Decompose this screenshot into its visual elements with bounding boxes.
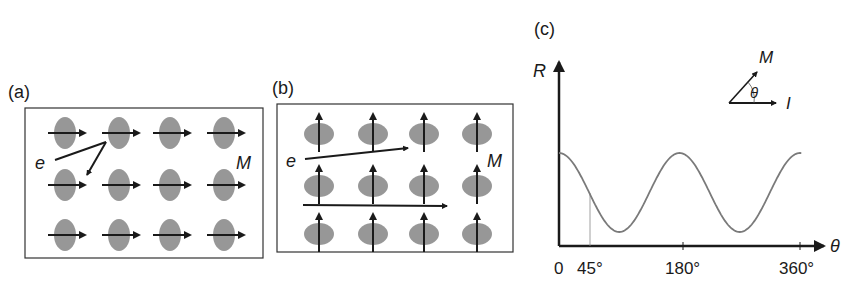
spin-atom [462,114,492,152]
tick-label-45: 45° [577,259,603,278]
spin-atom [102,219,139,251]
spin-lattice-b [304,114,492,252]
panel-a: (a) e M [8,82,263,258]
y-axis-label: R [533,61,546,81]
inset-i-label: I [786,94,791,113]
inset-m-label: M [759,48,774,67]
electron-label-b: e [286,151,296,171]
spin-atom [153,219,190,251]
panel-c: (c) R θ 0 45° 180° 360° M θ I [533,19,840,278]
spin-atom [462,166,492,204]
spin-atom [462,214,492,252]
figure-canvas: (a) e M (b) e M (c) R θ 0 45° 180° 360° [0,0,859,296]
magnetization-label-b: M [487,151,502,171]
tick-label-0: 0 [554,259,563,278]
spin-atom [409,166,439,204]
spin-atom [358,114,388,152]
spin-atom [207,169,244,201]
spin-atom [48,169,85,201]
inset-theta-label: θ [750,84,758,101]
spin-atom [102,169,139,201]
tick-label-180: 180° [665,259,700,278]
x-axis-label: θ [830,236,840,256]
spin-atom [358,214,388,252]
electron-label-a: e [35,153,45,173]
electron-path-lower [303,205,447,206]
magnetization-label-a: M [236,153,251,173]
resistance-curve [559,153,801,232]
spin-lattice-a [48,117,244,251]
spin-atom [102,117,139,149]
spin-atom [207,117,244,149]
spin-atom [48,117,85,149]
spin-atom [153,169,190,201]
spin-atom [304,166,334,204]
spin-atom [304,114,334,152]
spin-atom [48,219,85,251]
tick-label-360: 360° [779,259,814,278]
spin-atom [409,114,439,152]
panel-a-label: (a) [8,82,30,102]
panel-c-label: (c) [534,19,555,39]
spin-atom [409,214,439,252]
spin-atom [207,219,244,251]
panel-b-label: (b) [272,78,294,98]
angle-inset: M θ I [729,48,791,113]
electron-path-upper [305,148,408,159]
spin-atom [153,117,190,149]
spin-atom [304,214,334,252]
spin-atom [358,166,388,204]
panel-b: (b) e M [272,78,513,252]
